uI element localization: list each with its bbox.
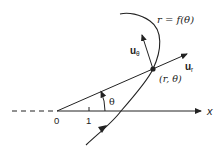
point-label: (r, θ) [159,73,182,84]
origin-label: 0 [54,115,59,126]
curve-direction-arrow [98,125,107,133]
x-axis-label: x [206,105,213,117]
polar-diagram: r = f(θ) (r, θ) ur uθ θ x 0 1 [0,0,221,156]
theta-angle-arc [101,92,105,112]
angle-label: θ [109,96,115,107]
u-theta-arrow [142,35,153,69]
curve-r-f-theta [86,13,160,145]
u-theta-label: uθ [130,45,140,57]
u-r-label: ur [185,61,194,73]
tick-label-1: 1 [86,115,91,126]
curve-label: r = f(θ) [157,14,194,25]
point-r-theta [150,66,155,71]
